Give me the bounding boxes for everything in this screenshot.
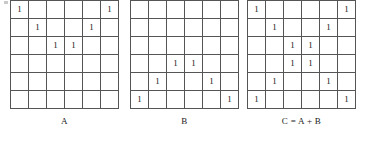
matrix-cell <box>11 55 29 73</box>
matrix-cell <box>266 1 284 19</box>
matrix-cell <box>320 37 338 55</box>
matrix-cell <box>221 37 239 55</box>
matrix-cell: 1 <box>248 91 266 109</box>
matrix-cell <box>284 73 302 91</box>
matrix-cell: 1 <box>338 91 356 109</box>
matrix-cell <box>203 55 221 73</box>
matrix-cell <box>221 73 239 91</box>
matrix-cell <box>101 55 119 73</box>
matrix-cell: 1 <box>167 55 185 73</box>
matrix-cell <box>248 73 266 91</box>
matrix-cell: 1 <box>266 73 284 91</box>
matrix-cell <box>338 55 356 73</box>
matrix-cell <box>65 1 83 19</box>
matrix-cell: 1 <box>302 37 320 55</box>
matrix-cell: 1 <box>29 19 47 37</box>
matrix-cell <box>167 73 185 91</box>
matrix-cell: 1 <box>338 1 356 19</box>
matrix-cell <box>47 55 65 73</box>
matrix-cell <box>167 37 185 55</box>
matrix-caption-b: B <box>181 116 187 126</box>
matrix-cell <box>167 1 185 19</box>
matrix-cell: 1 <box>47 37 65 55</box>
matrix-cell <box>65 55 83 73</box>
matrix-cell <box>29 55 47 73</box>
matrix-cell <box>149 91 167 109</box>
matrix-cell <box>185 19 203 37</box>
matrix-row: 11 <box>248 37 356 55</box>
matrix-row: 11 <box>248 55 356 73</box>
matrix-cell <box>185 37 203 55</box>
matrix-cell <box>302 1 320 19</box>
matrix-row: 11 <box>11 19 119 37</box>
matrix-cell: 1 <box>65 37 83 55</box>
matrix-cell <box>284 1 302 19</box>
matrix-cell <box>101 19 119 37</box>
matrix-cell <box>47 91 65 109</box>
matrix-cell <box>320 91 338 109</box>
matrix-cell <box>11 37 29 55</box>
matrix-cell <box>83 55 101 73</box>
matrix-cell <box>221 1 239 19</box>
matrix-cell <box>320 1 338 19</box>
matrix-cell <box>203 37 221 55</box>
matrix-cell <box>29 37 47 55</box>
matrix-row: 11 <box>248 91 356 109</box>
matrix-caption-a: A <box>61 116 68 126</box>
matrix-row <box>11 73 119 91</box>
matrix-cell: 1 <box>149 73 167 91</box>
matrix-row <box>11 91 119 109</box>
matrix-cell <box>83 73 101 91</box>
matrix-cell <box>203 91 221 109</box>
matrix-cell <box>338 37 356 55</box>
matrix-cell <box>11 73 29 91</box>
matrix-cell <box>101 73 119 91</box>
matrix-cell <box>266 91 284 109</box>
matrix-cell <box>221 55 239 73</box>
matrix-row <box>11 55 119 73</box>
matrix-cell: 1 <box>284 55 302 73</box>
matrix-cell: 1 <box>248 1 266 19</box>
matrix-cell <box>131 19 149 37</box>
matrix-block-c: 111111111111C = A + B <box>247 0 356 126</box>
matrix-cell <box>185 1 203 19</box>
matrix-cell <box>167 19 185 37</box>
matrix-cell <box>29 91 47 109</box>
matrix-cell <box>65 91 83 109</box>
matrix-row: 11 <box>131 73 239 91</box>
matrix-cell: 1 <box>320 73 338 91</box>
matrix-grid-b: 111111 <box>130 0 239 109</box>
matrix-cell <box>11 91 29 109</box>
matrix-row <box>131 1 239 19</box>
matrix-cell <box>83 1 101 19</box>
matrix-row <box>131 19 239 37</box>
matrix-cell: 1 <box>266 19 284 37</box>
matrix-block-a: 111111A <box>10 0 119 126</box>
matrix-cell <box>149 37 167 55</box>
matrix-cell <box>65 73 83 91</box>
matrix-cell <box>101 37 119 55</box>
matrix-cell <box>29 1 47 19</box>
matrix-cell: 1 <box>320 19 338 37</box>
matrix-cell <box>65 19 83 37</box>
matrix-cell: 1 <box>185 55 203 73</box>
matrix-cell <box>131 37 149 55</box>
matrix-cell <box>248 37 266 55</box>
matrix-cell <box>83 37 101 55</box>
matrix-cell <box>203 1 221 19</box>
matrix-row: 11 <box>248 19 356 37</box>
matrix-cell <box>149 19 167 37</box>
matrix-cell <box>338 19 356 37</box>
matrix-cell <box>248 55 266 73</box>
matrix-cell: 1 <box>203 73 221 91</box>
matrix-cell <box>47 19 65 37</box>
matrix-cell <box>47 1 65 19</box>
matrix-cell: 1 <box>101 1 119 19</box>
matrix-cell <box>131 55 149 73</box>
matrix-cell: 1 <box>221 91 239 109</box>
matrix-cell: 1 <box>83 19 101 37</box>
matrix-cell <box>149 1 167 19</box>
matrix-cell <box>47 73 65 91</box>
matrix-row: 11 <box>131 55 239 73</box>
matrix-row: 11 <box>248 1 356 19</box>
